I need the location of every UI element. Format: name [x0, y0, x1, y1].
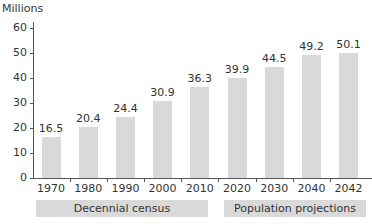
y-tick-label: 30	[0, 97, 27, 109]
x-tick-label: 2000	[143, 182, 183, 195]
x-axis-line	[33, 178, 372, 179]
y-tick	[30, 103, 34, 104]
y-tick-label: 10	[0, 147, 27, 159]
bar-2030	[265, 67, 284, 178]
group-band-decennial-census: Decennial census	[36, 200, 208, 217]
x-tick-label: 1970	[31, 182, 71, 195]
bar-value-label: 20.4	[68, 113, 108, 125]
bar-1980	[79, 127, 98, 178]
bar-value-label: 36.3	[180, 73, 220, 85]
y-tick	[30, 153, 34, 154]
bar-value-label: 44.5	[254, 53, 294, 65]
bar-value-label: 16.5	[31, 123, 71, 135]
y-tick-label: 50	[0, 47, 27, 59]
bar-value-label: 49.2	[291, 41, 331, 53]
y-tick-label: 0	[0, 172, 27, 184]
y-tick-label: 20	[0, 122, 27, 134]
y-axis-title: Millions	[2, 2, 43, 15]
y-tick-label: 60	[0, 22, 27, 34]
y-tick	[30, 53, 34, 54]
x-tick-label: 1990	[105, 182, 145, 195]
bar-value-label: 39.9	[217, 64, 257, 76]
bar-value-label: 50.1	[329, 39, 369, 51]
x-tick-label: 2010	[180, 182, 220, 195]
bar-1990	[116, 117, 135, 178]
bar-value-label: 30.9	[143, 87, 183, 99]
y-axis-line	[33, 22, 34, 179]
bar-1970	[42, 137, 61, 178]
x-tick-label: 2040	[291, 182, 331, 195]
y-tick-label: 40	[0, 72, 27, 84]
bar-2040	[302, 55, 321, 178]
y-tick	[30, 78, 34, 79]
group-band-population-projections: Population projections	[224, 200, 366, 217]
x-tick-label: 2042	[329, 182, 369, 195]
y-tick	[30, 178, 34, 179]
y-tick	[30, 28, 34, 29]
x-tick-label: 1980	[68, 182, 108, 195]
x-tick-label: 2030	[254, 182, 294, 195]
bar-2020	[228, 78, 247, 178]
bar-2042	[339, 53, 358, 178]
bar-value-label: 24.4	[105, 103, 145, 115]
bar-2000	[153, 101, 172, 178]
bar-2010	[190, 87, 209, 178]
x-tick-label: 2020	[217, 182, 257, 195]
